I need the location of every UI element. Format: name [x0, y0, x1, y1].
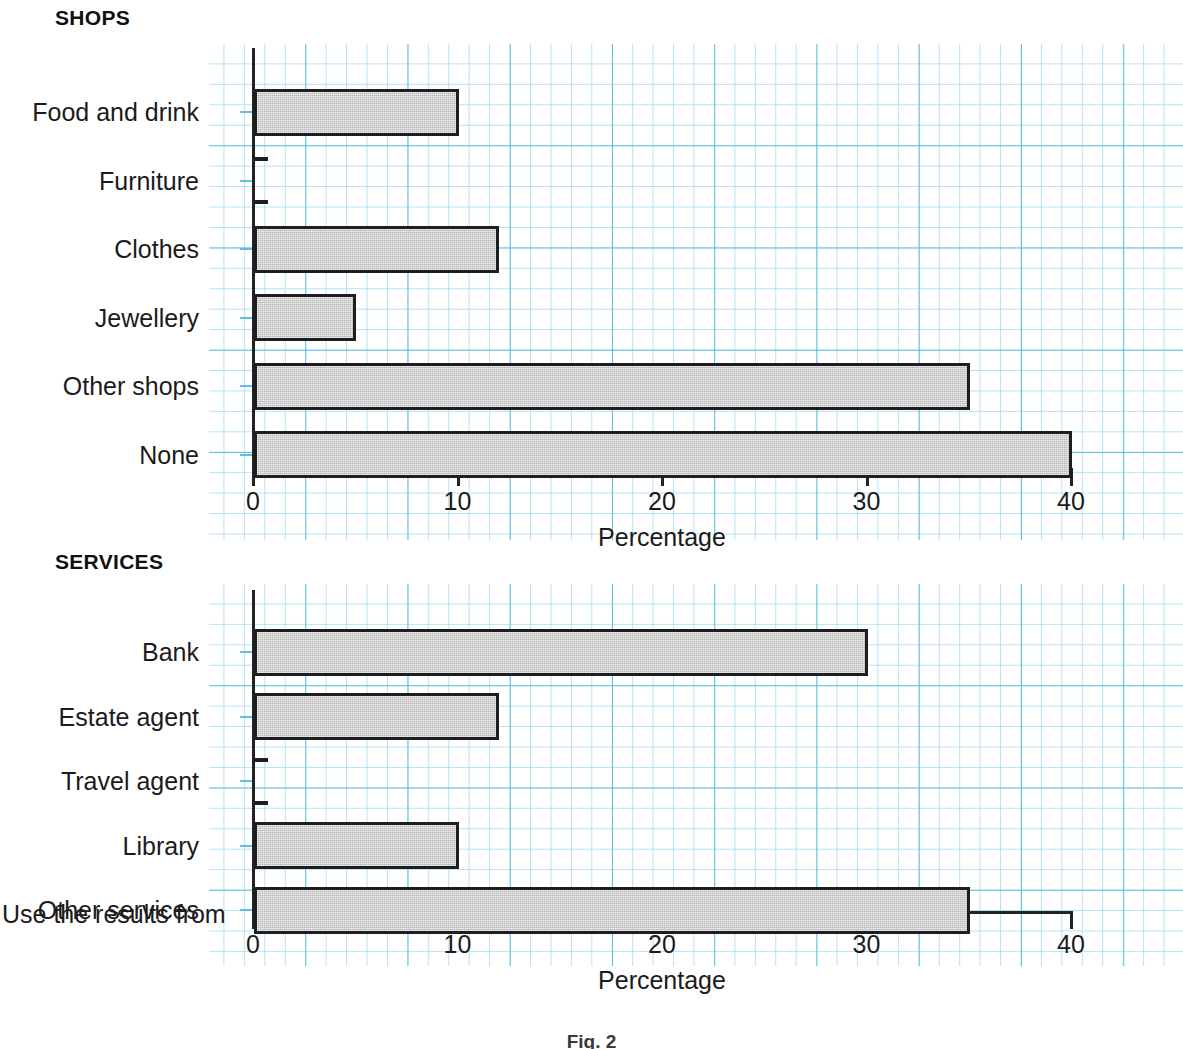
category-label-library: Library [123, 831, 199, 860]
x-axis-tick-label: 30 [853, 930, 881, 959]
category-label-clothes: Clothes [114, 235, 199, 264]
category-row-tick [240, 248, 252, 250]
services-axes-layer: 010203040Percentage [209, 584, 1183, 966]
bar-food-and-drink [254, 89, 459, 136]
x-axis-caption: Percentage [598, 966, 726, 995]
bar-bank [254, 629, 868, 676]
x-axis-tick-label: 40 [1057, 487, 1085, 516]
category-label-furniture: Furniture [99, 166, 199, 195]
shops-category-labels: Food and drinkFurnitureClothesJewelleryO… [0, 0, 199, 540]
bar-other-shops [254, 363, 970, 410]
bar-estate-agent [254, 693, 499, 740]
bar-other-services [254, 887, 970, 934]
category-row-tick [240, 651, 252, 653]
x-axis-tick-label: 0 [246, 930, 260, 959]
x-axis-tick-label: 10 [444, 487, 472, 516]
category-label-jewellery: Jewellery [95, 303, 199, 332]
bar-travel-agent [254, 758, 268, 805]
x-axis-tick-label: 0 [246, 487, 260, 516]
category-row-tick [240, 385, 252, 387]
category-label-bank: Bank [142, 638, 199, 667]
category-row-tick [240, 909, 252, 911]
bar-jewellery [254, 294, 356, 341]
x-axis-tick-label: 20 [648, 487, 676, 516]
shops-axes-layer: 010203040Percentage [209, 44, 1183, 540]
category-label-food-and-drink: Food and drink [32, 98, 199, 127]
category-label-other-shops: Other shops [63, 372, 199, 401]
stray-instruction-text: Use the results from [2, 900, 226, 929]
category-row-tick [240, 716, 252, 718]
category-row-tick [240, 780, 252, 782]
category-row-tick [240, 317, 252, 319]
shops-plot-area: 010203040Percentage [209, 44, 1183, 540]
bar-library [254, 822, 459, 869]
x-axis-tick-label: 10 [444, 930, 472, 959]
shops-chart-panel: SHOPS 010203040Percentage Food and drink… [0, 0, 1183, 540]
category-row-tick [240, 454, 252, 456]
category-label-estate-agent: Estate agent [59, 702, 199, 731]
bar-none [254, 431, 1072, 478]
x-axis-tick-label: 40 [1057, 930, 1085, 959]
category-row-tick [240, 845, 252, 847]
services-plot-area: 010203040Percentage [209, 584, 1183, 966]
figure-caption: Fig. 2 [0, 1031, 1183, 1049]
x-axis-tick [1070, 914, 1073, 929]
category-row-tick [240, 180, 252, 182]
category-row-tick [240, 111, 252, 113]
x-axis-tick-label: 30 [853, 487, 881, 516]
category-label-none: None [139, 440, 199, 469]
x-axis-tick-label: 20 [648, 930, 676, 959]
category-label-travel-agent: Travel agent [61, 767, 199, 796]
bar-furniture [254, 157, 268, 204]
bar-clothes [254, 226, 499, 273]
